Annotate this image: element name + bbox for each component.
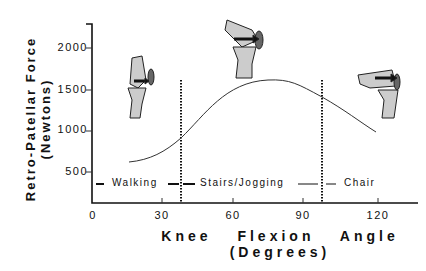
knee-illustration-stairs bbox=[225, 20, 263, 78]
zone-label-chair: Chair bbox=[342, 177, 377, 188]
knee-illustration-chair bbox=[358, 70, 400, 118]
force-curve bbox=[129, 80, 376, 162]
zone-label-walking: Walking bbox=[110, 177, 160, 188]
y-ticks bbox=[86, 48, 92, 172]
knee-illustration-walking bbox=[128, 56, 154, 118]
x-axis-title: Knee Flexion Angle bbox=[150, 228, 410, 244]
zone-label-stairs-jogging: Stairs/Jogging bbox=[198, 177, 286, 188]
x-axis-units: (Degrees) bbox=[150, 244, 410, 260]
